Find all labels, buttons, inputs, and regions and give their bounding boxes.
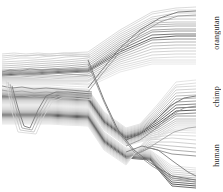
taxon-label-human: human [213,144,221,167]
taxon-label-orangutan: orangutan [213,16,221,50]
tree-lines-canvas [0,0,223,192]
orangutan-bundle-group [2,7,196,87]
phylogenetic-densitree-figure: orangutan chimp human [0,0,223,192]
taxon-label-chimp: chimp [213,86,221,107]
